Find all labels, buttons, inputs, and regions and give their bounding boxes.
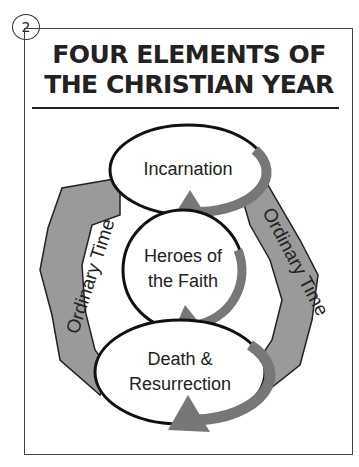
heroes-label-line2: the Faith <box>148 271 218 291</box>
death-label-line1: Death & <box>147 349 212 369</box>
death-label-line2: Resurrection <box>129 374 231 394</box>
heroes-label-line1: Heroes of <box>144 246 223 266</box>
incarnation-label: Incarnation <box>143 159 232 179</box>
christian-year-diagram: Ordinary Time Ordinary Time Incarnation … <box>0 0 359 467</box>
